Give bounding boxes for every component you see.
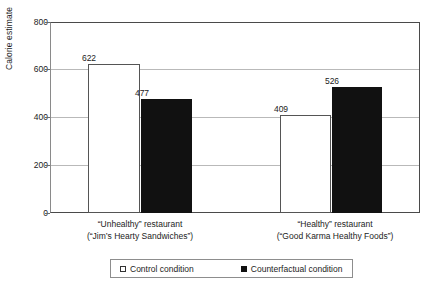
- legend-swatch-counterfactual-icon: [241, 266, 247, 272]
- legend-label-control: Control condition: [130, 264, 194, 274]
- bar-group1-control[interactable]: [88, 64, 140, 213]
- bar-value-group2-counterfactual: 526: [311, 76, 353, 86]
- bar-value-group2-control: 409: [260, 104, 302, 114]
- y-tick-label-600: 600: [0, 65, 48, 74]
- y-tick-label-400: 400: [0, 113, 48, 122]
- bar-group1-counterfactual[interactable]: [141, 99, 192, 213]
- category-label-group1: “Unhealthy” restaurant (“Jim’s Hearty Sa…: [50, 218, 230, 242]
- y-axis-title: Calorie estimate: [4, 0, 18, 70]
- bars-layer: [50, 22, 420, 213]
- legend-swatch-control-icon: [120, 266, 126, 272]
- bar-chart: Calorie estimate 800 600 400 200 0 622 4…: [0, 0, 437, 286]
- y-tick-label-200: 200: [0, 161, 48, 170]
- category-label-group1-line2: (“Jim’s Hearty Sandwiches”): [50, 230, 230, 242]
- category-label-group1-line1: “Unhealthy” restaurant: [98, 219, 183, 229]
- bar-group2-control[interactable]: [280, 115, 331, 213]
- legend-label-counterfactual: Counterfactual condition: [251, 264, 343, 274]
- bar-group2-counterfactual[interactable]: [332, 87, 382, 213]
- y-tick-label-0: 0: [0, 209, 48, 218]
- category-label-group2-line1: “Healthy” restaurant: [297, 219, 372, 229]
- legend-item-counterfactual[interactable]: Counterfactual condition: [241, 264, 343, 274]
- y-tick-label-800: 800: [0, 18, 48, 27]
- category-label-group2-line2: (“Good Karma Healthy Foods”): [240, 230, 430, 242]
- category-label-group2: “Healthy” restaurant (“Good Karma Health…: [240, 218, 430, 242]
- bar-value-group1-counterfactual: 477: [121, 88, 163, 98]
- legend-item-control[interactable]: Control condition: [120, 264, 194, 274]
- y-tick-mark-0: [45, 213, 50, 214]
- legend: Control condition Counterfactual conditi…: [110, 259, 353, 278]
- bar-value-group1-control: 622: [68, 53, 110, 63]
